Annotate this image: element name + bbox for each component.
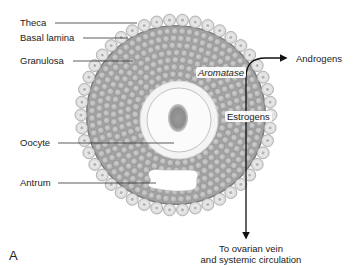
granulosa-cell [230, 60, 237, 67]
granulosa-cell [249, 122, 256, 129]
granulosa-cell [180, 57, 187, 64]
granulosa-cell [201, 32, 208, 39]
granulosa-cell [135, 45, 142, 52]
granulosa-cell [178, 64, 185, 71]
theca-cell-nucleus [80, 126, 83, 129]
theca-cell-nucleus [229, 36, 232, 39]
granulosa-cell [151, 53, 158, 60]
granulosa-cell [170, 196, 177, 203]
granulosa-cell [112, 96, 119, 103]
granulosa-cell [103, 117, 110, 124]
granulosa-cell [121, 131, 128, 138]
granulosa-cell [115, 89, 122, 96]
granulosa-cell [106, 132, 113, 139]
granulosa-cell [162, 72, 169, 79]
granulosa-cell [220, 172, 227, 179]
granulosa-cell [185, 36, 192, 43]
granulosa-cell [213, 138, 220, 145]
granulosa-cell [132, 74, 139, 81]
granulosa-cell [179, 28, 186, 35]
granulosa-cell [118, 69, 125, 76]
theca-cell-nucleus [194, 20, 197, 23]
granulosa-cell [127, 128, 134, 135]
granulosa-cell [220, 102, 227, 109]
granulosa-cell [226, 47, 233, 54]
granulosa-cell [178, 196, 185, 203]
granulosa-cell [132, 65, 139, 72]
theca-cell-nucleus [143, 203, 146, 206]
granulosa-cell [231, 172, 238, 179]
theca-cell-nucleus [131, 198, 134, 201]
granulosa-cell [239, 150, 246, 157]
granulosa-cell [144, 159, 151, 166]
granulosa-cell [137, 79, 144, 86]
theca-cell-nucleus [93, 163, 96, 166]
granulosa-cell [112, 64, 119, 71]
granulosa-cell [156, 67, 163, 74]
label-aromatase: Aromatase [196, 67, 246, 78]
label-androgens: Androgens [296, 53, 342, 64]
granulosa-cell [129, 40, 136, 47]
granulosa-cell [211, 54, 218, 61]
granulosa-cell [122, 179, 129, 186]
granulosa-cell [206, 189, 213, 196]
granulosa-cell [230, 152, 237, 159]
granulosa-cell [160, 158, 167, 165]
granulosa-cell [152, 155, 159, 162]
granulosa-cell [201, 175, 208, 182]
granulosa-cell [105, 95, 112, 102]
granulosa-cell [157, 59, 164, 66]
theca-cell-nucleus [168, 208, 171, 211]
granulosa-cell [208, 163, 215, 170]
granulosa-cell [98, 150, 105, 157]
theca-cell-nucleus [248, 173, 251, 176]
granulosa-cell [185, 73, 192, 80]
granulosa-cell [89, 115, 96, 122]
granulosa-cell [123, 87, 130, 94]
antrum [148, 170, 198, 192]
granulosa-cell [177, 71, 184, 78]
theca-cell-nucleus [181, 19, 184, 22]
granulosa-cell [137, 69, 144, 76]
granulosa-cell [149, 31, 156, 38]
granulosa-cell [123, 63, 130, 70]
granulosa-cell [215, 88, 222, 95]
granulosa-cell [138, 155, 145, 162]
granulosa-cell [163, 65, 170, 72]
granulosa-cell [241, 125, 248, 132]
granulosa-cell [169, 42, 176, 49]
granulosa-cell [247, 93, 254, 100]
granulosa-cell [96, 105, 103, 112]
granulosa-cell [117, 58, 124, 65]
granulosa-cell [114, 75, 121, 82]
theca-cell-nucleus [256, 64, 259, 67]
granulosa-cell [143, 74, 150, 81]
granulosa-cell [255, 97, 262, 104]
granulosa-cell [235, 156, 242, 163]
granulosa-cell [188, 51, 195, 58]
granulosa-cell [220, 163, 227, 170]
granulosa-cell [91, 93, 98, 100]
theca-cell-nucleus [155, 206, 158, 209]
theca-cell-nucleus [155, 20, 158, 23]
granulosa-cell [97, 127, 104, 134]
granulosa-cell [147, 47, 154, 54]
granulosa-cell [91, 130, 98, 137]
granulosa-cell [219, 154, 226, 161]
granulosa-cell [207, 180, 214, 187]
granulosa-cell [182, 159, 189, 166]
granulosa-cell [104, 125, 111, 132]
granulosa-cell [149, 70, 156, 77]
granulosa-cell [140, 147, 147, 154]
granulosa-cell [233, 97, 240, 104]
granulosa-cell [146, 152, 153, 159]
granulosa-cell [99, 90, 106, 97]
granulosa-cell [254, 90, 261, 97]
theca-cell-nucleus [248, 53, 251, 56]
granulosa-cell [170, 71, 177, 78]
granulosa-cell [219, 50, 226, 57]
granulosa-cell [225, 167, 232, 174]
granulosa-cell [158, 51, 165, 58]
theca-cell-nucleus [110, 44, 113, 47]
granulosa-cell [107, 59, 114, 66]
